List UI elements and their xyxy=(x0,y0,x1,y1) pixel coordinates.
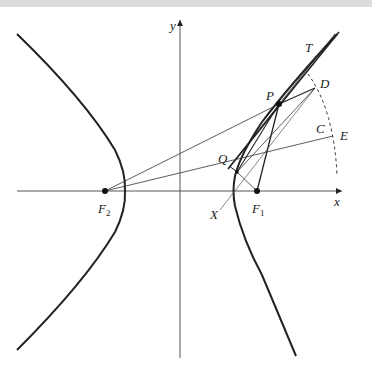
diagram-canvas: y x F2 F1 P Q D E C T X xyxy=(0,0,372,374)
hyperbola-diagram: y x F2 F1 P Q D E C T X xyxy=(0,0,372,374)
line-F1-P xyxy=(257,104,279,191)
tick-Q xyxy=(229,166,236,171)
label-C: C xyxy=(316,121,325,136)
line-P-D xyxy=(279,88,315,104)
label-x-axis: x xyxy=(333,194,340,209)
line-F2-P xyxy=(105,104,279,191)
label-E: E xyxy=(339,128,348,143)
tangent-line-T2 xyxy=(230,34,335,166)
label-F1: F1 xyxy=(251,201,264,218)
label-y-axis: y xyxy=(168,18,176,33)
line-D-Q xyxy=(237,88,315,172)
label-Q: Q xyxy=(218,151,228,166)
label-F2: F2 xyxy=(97,201,110,218)
hyperbola-left-branch xyxy=(17,34,125,350)
label-T: T xyxy=(305,40,313,55)
point-P xyxy=(276,101,282,107)
label-P: P xyxy=(265,88,274,103)
label-X: X xyxy=(209,207,219,222)
point-F2 xyxy=(102,188,108,194)
point-Q-curve xyxy=(235,170,239,174)
point-F1 xyxy=(254,188,260,194)
line-D-X xyxy=(220,88,315,210)
label-D: D xyxy=(319,76,330,91)
